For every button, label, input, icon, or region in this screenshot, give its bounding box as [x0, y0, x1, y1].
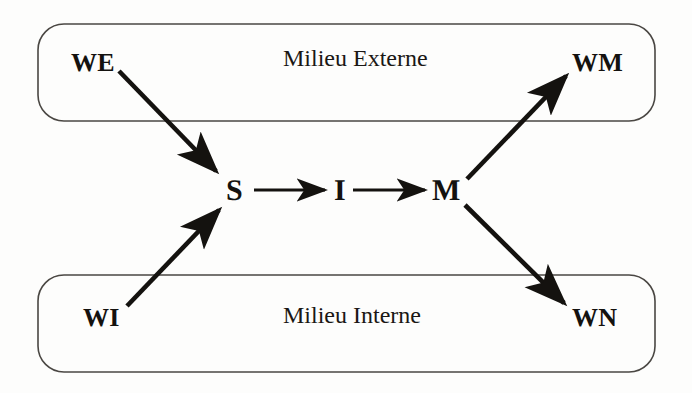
region-label-milieu-interne: Milieu Interne [283, 303, 421, 327]
node-label-s: S [226, 176, 243, 206]
node-label-m: M [432, 176, 460, 206]
node-label-i: I [334, 176, 346, 206]
arrow-wi-to-s [127, 210, 219, 306]
arrow-m-to-wm [467, 76, 566, 179]
node-label-wm: WM [572, 50, 623, 76]
diagram-canvas: Milieu Externe Milieu Interne WE WM WI W… [0, 0, 692, 393]
node-label-wn: WN [572, 305, 617, 331]
node-label-we: WE [71, 50, 115, 76]
arrow-m-to-wn [465, 205, 564, 303]
node-label-wi: WI [83, 305, 120, 331]
region-box-milieu-externe [38, 24, 655, 121]
region-label-milieu-externe: Milieu Externe [283, 46, 428, 70]
